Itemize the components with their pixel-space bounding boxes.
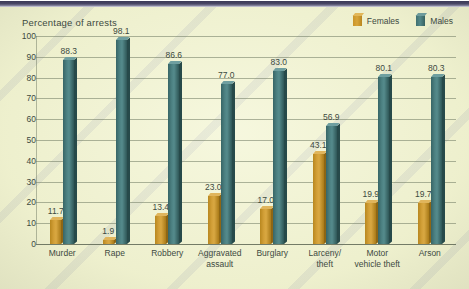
y-axis-tick-labels: 0102030405060708090100 xyxy=(12,36,36,244)
bar-face xyxy=(50,220,61,244)
bar-side-face xyxy=(389,75,392,244)
bar-females-aggravated-assault xyxy=(208,196,219,244)
bar-males-motor-vehicle theft xyxy=(378,77,389,244)
x-label-robbery: Robbery xyxy=(151,248,183,259)
bar-face xyxy=(168,64,179,244)
bar-face xyxy=(116,40,127,244)
x-label-arson: Arson xyxy=(419,248,441,259)
bar-group xyxy=(418,36,442,244)
x-label-murder: Murder xyxy=(49,248,76,259)
bar-females-murder xyxy=(50,220,61,244)
y-tick-50: 50 xyxy=(27,135,36,145)
bar-group xyxy=(365,36,389,244)
bar-group xyxy=(208,36,232,244)
bar-face xyxy=(326,126,337,244)
x-label-motor-vehicle theft: Motor vehicle theft xyxy=(355,248,400,269)
x-label-larceny/-theft: Larceny/ theft xyxy=(308,248,341,269)
bar-females-arson xyxy=(418,203,429,244)
bar-face xyxy=(418,203,429,244)
bar-face xyxy=(103,240,114,244)
y-tick-20: 20 xyxy=(27,197,36,207)
bar-side-face xyxy=(127,37,130,244)
x-label-rape: Rape xyxy=(105,248,125,259)
bar-males-murder xyxy=(63,60,74,244)
y-tick-30: 30 xyxy=(27,177,36,187)
bar-group xyxy=(50,36,74,244)
bar-males-aggravated-assault xyxy=(221,84,232,244)
bar-side-face xyxy=(74,58,77,244)
bar-side-face xyxy=(179,61,182,244)
x-label-burglary: Burglary xyxy=(256,248,288,259)
bar-face xyxy=(260,209,271,244)
bar-series-container: 11.788.31.998.113.486.623.077.017.083.04… xyxy=(36,36,456,244)
y-tick-100: 100 xyxy=(22,31,36,41)
bar-females-larceny/-theft xyxy=(313,154,324,244)
bar-males-arson xyxy=(431,77,442,244)
bar-face xyxy=(378,77,389,244)
bar-face xyxy=(431,77,442,244)
bar-side-face xyxy=(337,123,340,244)
plot-area: 0102030405060708090100 11.788.31.998.113… xyxy=(0,0,469,282)
data-label-males-rape: 98.1 xyxy=(113,26,130,36)
y-tick-80: 80 xyxy=(27,73,36,83)
gridline-0 xyxy=(36,244,456,245)
bar-face xyxy=(208,196,219,244)
bar-side-face xyxy=(284,69,287,244)
bar-group xyxy=(260,36,284,244)
bar-females-burglary xyxy=(260,209,271,244)
bar-group xyxy=(103,36,127,244)
bar-females-motor-vehicle theft xyxy=(365,203,376,244)
bar-males-burglary xyxy=(273,71,284,244)
bar-face xyxy=(365,203,376,244)
bar-side-face xyxy=(232,81,235,244)
bar-females-robbery xyxy=(155,216,166,244)
bar-males-rape xyxy=(116,40,127,244)
bar-side-face xyxy=(442,74,445,244)
bar-face xyxy=(63,60,74,244)
y-tick-40: 40 xyxy=(27,156,36,166)
bar-face xyxy=(313,154,324,244)
y-tick-10: 10 xyxy=(27,218,36,228)
y-tick-60: 60 xyxy=(27,114,36,124)
bar-group xyxy=(313,36,337,244)
bar-group xyxy=(155,36,179,244)
bar-face xyxy=(221,84,232,244)
bar-females-rape xyxy=(103,240,114,244)
y-tick-90: 90 xyxy=(27,52,36,62)
bar-males-larceny/-theft xyxy=(326,126,337,244)
bar-face xyxy=(273,71,284,244)
bar-males-robbery xyxy=(168,64,179,244)
bar-face xyxy=(155,216,166,244)
chart-screenshot: Percentage of arrests Females Males 0102… xyxy=(0,0,469,289)
y-tick-70: 70 xyxy=(27,93,36,103)
x-axis-category-labels: MurderRapeRobberyAggravated assaultBurgl… xyxy=(36,248,456,280)
x-label-aggravated-assault: Aggravated assault xyxy=(198,248,241,269)
